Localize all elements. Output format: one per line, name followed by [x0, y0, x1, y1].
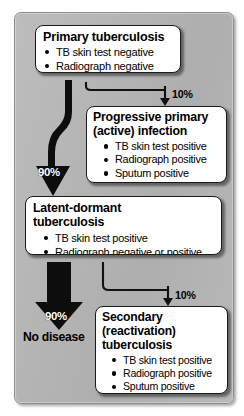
node-secondary-findings: TB skin test positive Radiograph positiv… [102, 354, 222, 394]
list-item: TB skin test negative [43, 45, 173, 59]
node-secondary-reactivation-tuberculosis: Secondary (reactivation) tuberculosis TB… [95, 306, 228, 394]
node-progressive-primary-infection: Progressive primary (active) infection T… [86, 106, 227, 183]
node-progressive-heading-line2: (active) infection [93, 124, 220, 138]
node-latent-dormant-tuberculosis: Latent-dormant tuberculosis TB skin test… [25, 196, 222, 255]
node-no-disease: No disease [23, 330, 84, 344]
node-latent-findings: TB skin test positive Radiograph negativ… [33, 231, 214, 255]
node-latent-heading-line2: tuberculosis [33, 215, 214, 229]
node-secondary-heading-line3: tuberculosis [102, 338, 222, 352]
list-item: TB skin test positive [42, 231, 214, 245]
edge-label-10-percent-primary: 10% [172, 88, 193, 100]
list-item: Radiograph positive [110, 367, 222, 380]
list-item: TB skin test positive [110, 354, 222, 367]
node-latent-heading-line1: Latent-dormant [33, 201, 214, 215]
list-item: Radiograph negative [43, 59, 173, 73]
edge-label-90-percent-latent: 90% [45, 310, 67, 322]
edge-label-10-percent-latent: 10% [175, 289, 196, 301]
list-item: TB skin test positive [102, 140, 220, 154]
node-primary-tuberculosis: Primary tuberculosis TB skin test negati… [35, 25, 181, 73]
list-item: Sputum positive [102, 167, 220, 181]
node-primary-findings: TB skin test negative Radiograph negativ… [43, 45, 173, 73]
list-item: Radiograph positive [102, 153, 220, 167]
node-progressive-findings: TB skin test positive Radiograph positiv… [93, 140, 220, 181]
list-item: Radiograph negative or positive [42, 245, 214, 255]
list-item: Sputum positive [110, 380, 222, 393]
node-progressive-heading-line1: Progressive primary [93, 110, 220, 124]
node-secondary-heading-line2: (reactivation) [102, 324, 222, 338]
edge-label-90-percent-primary: 90% [38, 166, 60, 178]
diagram-canvas: Primary tuberculosis TB skin test negati… [0, 0, 244, 416]
node-primary-heading: Primary tuberculosis [43, 30, 173, 45]
node-secondary-heading-line1: Secondary [102, 310, 222, 324]
